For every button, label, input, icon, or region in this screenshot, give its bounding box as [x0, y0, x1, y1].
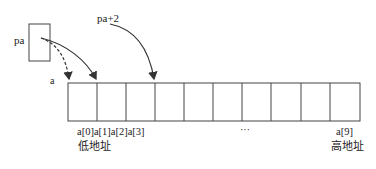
- high-address-label: 高地址: [331, 141, 364, 153]
- pointer-offset-label: pa+2: [97, 12, 119, 24]
- dashed-arrow-icon: [41, 38, 69, 79]
- pointer-array-diagram: [0, 0, 376, 169]
- pointer-box: [29, 24, 50, 61]
- last-index-label: a[9]: [336, 126, 353, 138]
- low-address-label: 低地址: [78, 141, 111, 153]
- offset-arrow-icon: [110, 24, 154, 79]
- pointer-label: pa: [14, 34, 24, 46]
- ellipsis: ···: [240, 124, 250, 136]
- array-index-labels: a[0]a[1]a[2]a[3]: [77, 126, 145, 138]
- array-name-label: a: [50, 75, 54, 87]
- array-cells: [68, 83, 360, 121]
